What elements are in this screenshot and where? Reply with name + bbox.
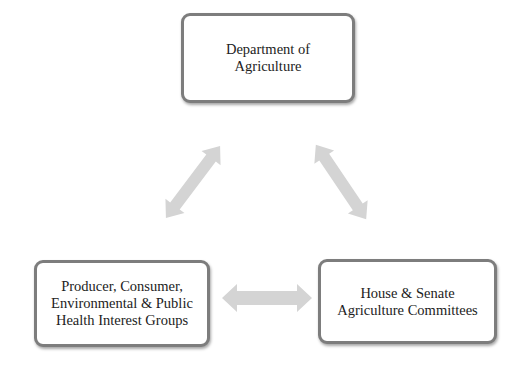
node-agriculture-committees: House & Senate Agriculture Committees (318, 259, 497, 344)
arrow-left-right (222, 284, 312, 312)
node-department-of-agriculture: Department of Agriculture (181, 13, 355, 103)
node-interest-groups: Producer, Consumer, Environmental & Publ… (34, 260, 210, 347)
node-label-line: Department of (226, 41, 310, 58)
node-label-line: Health Interest Groups (51, 312, 193, 329)
node-label-line: Producer, Consumer, (51, 278, 193, 295)
node-label-line: Agriculture (226, 58, 310, 75)
node-label-line: House & Senate (337, 285, 478, 302)
node-label-line: Agriculture Committees (337, 302, 478, 319)
node-label-line: Environmental & Public (51, 295, 193, 312)
arrow-top-right (306, 138, 376, 226)
arrow-top-left (156, 139, 229, 225)
